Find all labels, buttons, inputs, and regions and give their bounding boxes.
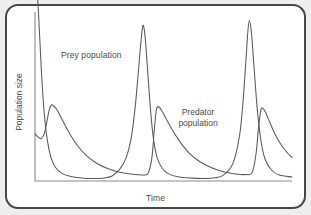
prey-population-curve [35,0,292,178]
predator-population-label: Predator population [168,107,228,129]
predator-population-curve [35,105,292,175]
prey-population-label: Prey population [61,50,122,60]
figure-root: Population size Time Prey population Pre… [0,0,311,215]
x-axis-label: Time [0,193,311,203]
y-axis-label-text: Population size [14,73,24,131]
predator-population-label-line2: population [168,118,228,129]
y-axis-label: Population size [12,62,26,142]
axis-lines [35,12,292,181]
population-cycle-chart [0,0,311,215]
predator-population-label-line1: Predator [168,107,228,118]
curves [35,0,292,178]
plot-area: Population size Time Prey population Pre… [0,0,311,215]
